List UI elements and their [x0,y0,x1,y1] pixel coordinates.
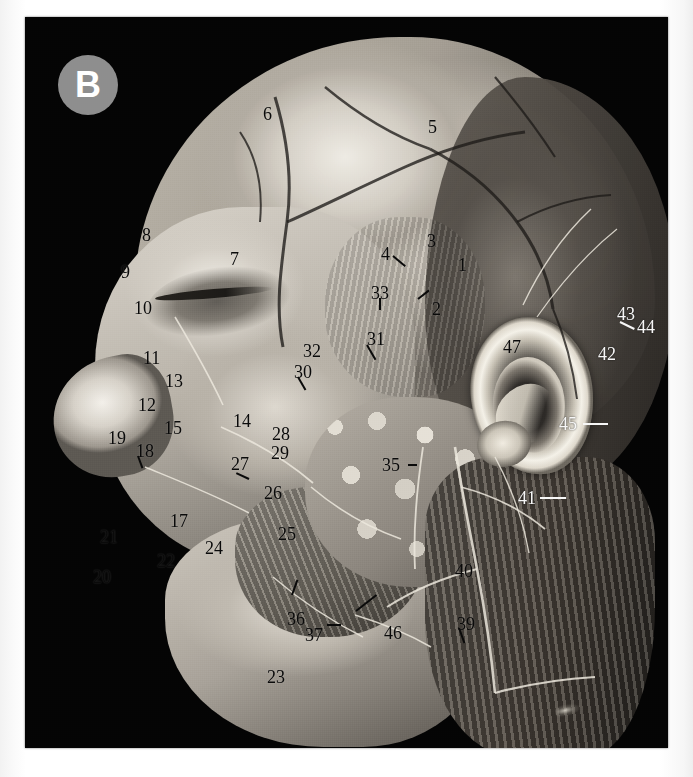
callout-label-44: 44 [637,318,655,336]
callout-label-7: 7 [230,250,239,268]
callout-label-17: 17 [170,512,188,530]
callout-label-1: 1 [458,256,467,274]
neck-sternocleidomastoid-region [425,457,655,748]
callout-label-36: 36 [287,610,305,628]
callout-label-25: 25 [278,525,296,543]
panel-label-badge: B [58,55,118,115]
callout-label-31: 31 [367,330,385,348]
callout-label-4: 4 [381,245,390,263]
callout-label-11: 11 [143,349,160,367]
callout-label-6: 6 [263,105,272,123]
callout-label-45: 45 [559,415,577,433]
callout-label-22: 22 [157,552,175,570]
callout-label-40: 40 [455,562,473,580]
callout-label-32: 32 [303,342,321,360]
callout-label-28: 28 [272,425,290,443]
callout-label-27: 27 [231,455,249,473]
callout-label-2: 2 [432,300,441,318]
callout-leader-35 [408,464,417,466]
callout-label-42: 42 [598,345,616,363]
callout-label-10: 10 [134,299,152,317]
callout-label-14: 14 [233,412,251,430]
callout-label-47: 47 [503,338,521,356]
callout-label-19: 19 [108,429,126,447]
callout-label-35: 35 [382,456,400,474]
callout-leader-33 [379,298,381,310]
callout-label-3: 3 [427,232,436,250]
callout-leader-41 [540,497,566,499]
callout-label-20: 20 [93,568,111,586]
anatomy-photograph-plate: B 12345678910111213141517181920212223242… [25,17,668,748]
callout-label-26: 26 [264,484,282,502]
callout-label-41: 41 [518,489,536,507]
figure-page: B 12345678910111213141517181920212223242… [0,0,693,777]
callout-label-37: 37 [305,626,323,644]
callout-leader-45 [583,423,608,425]
callout-label-5: 5 [428,118,437,136]
callout-leader-37 [327,624,341,626]
callout-label-23: 23 [267,668,285,686]
callout-label-8: 8 [142,226,151,244]
panel-label-text: B [75,67,101,103]
callout-label-21: 21 [100,528,118,546]
callout-label-12: 12 [138,396,156,414]
temporalis-muscle-region [325,217,485,397]
callout-label-29: 29 [271,444,289,462]
callout-label-24: 24 [205,539,223,557]
callout-label-9: 9 [121,263,130,281]
callout-label-15: 15 [164,419,182,437]
callout-label-13: 13 [165,372,183,390]
callout-label-46: 46 [384,624,402,642]
